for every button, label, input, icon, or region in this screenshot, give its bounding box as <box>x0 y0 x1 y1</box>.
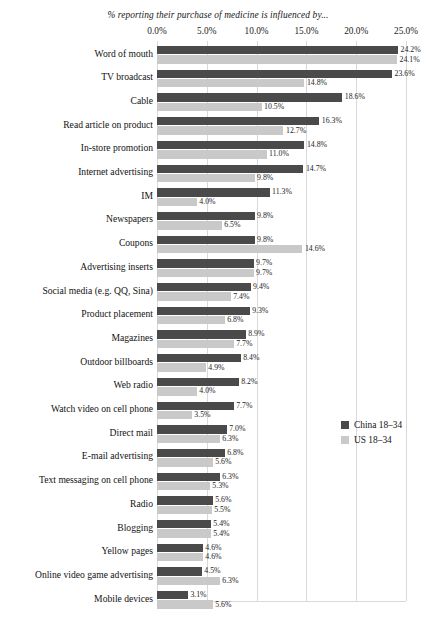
bar-china <box>157 544 203 552</box>
bar-value-china: 24.2% <box>398 46 421 54</box>
legend-label: China 18–34 <box>354 420 402 430</box>
bar-group: 11.3%4.0% <box>157 188 436 209</box>
chart-title: % reporting their purchase of medicine i… <box>0 10 436 20</box>
bar-value-us: 14.8% <box>304 79 327 87</box>
bar-china <box>157 449 225 457</box>
bar-value-china: 6.3% <box>220 473 239 481</box>
legend-item[interactable]: China 18–34 <box>341 417 436 432</box>
bar-value-china: 9.8% <box>255 212 274 220</box>
bar-us <box>157 221 222 229</box>
bar-row: Yellow pages4.6%4.6% <box>0 542 436 566</box>
bar-group: 16.3%12.7% <box>157 117 436 138</box>
category-label: Yellow pages <box>0 545 153 557</box>
bar-group: 9.8%6.5% <box>157 211 436 232</box>
x-tick-label: 0.0% <box>147 26 166 36</box>
bar-row: Internet advertising14.7%9.8% <box>0 163 436 187</box>
bar-china <box>157 188 270 196</box>
category-label: Coupons <box>0 237 153 249</box>
bar-row: Magazines8.9%7.7% <box>0 328 436 352</box>
bar-value-us: 6.3% <box>220 435 239 443</box>
bar-value-us: 5.4% <box>211 530 230 538</box>
bar-us <box>157 553 203 561</box>
bar-row: Online video game advertising4.5%6.3% <box>0 565 436 589</box>
legend-label: US 18–34 <box>354 435 392 445</box>
bar-china <box>157 354 241 362</box>
bar-group: 4.5%6.3% <box>157 567 436 588</box>
bar-row: Text messaging on cell phone6.3%5.3% <box>0 471 436 495</box>
bar-value-us: 6.5% <box>222 221 241 229</box>
bar-value-china: 6.8% <box>225 449 244 457</box>
bar-row: Word of mouth24.2%24.1% <box>0 44 436 68</box>
bar-value-china: 3.1% <box>188 591 207 599</box>
bar-us <box>157 506 212 514</box>
category-label: Read article on product <box>0 119 153 131</box>
category-label: TV broadcast <box>0 71 153 83</box>
bar-value-china: 11.3% <box>270 188 292 196</box>
x-tick-label: 10.0% <box>245 26 269 36</box>
bar-us <box>157 174 255 182</box>
bar-value-china: 14.8% <box>304 141 327 149</box>
bar-china <box>157 259 254 267</box>
bar-value-us: 4.6% <box>203 553 222 561</box>
bar-value-us: 3.5% <box>192 411 211 419</box>
bar-group: 9.3%6.8% <box>157 306 436 327</box>
bar-row: Advertising inserts9.7%9.7% <box>0 257 436 281</box>
bar-group: 5.4%5.4% <box>157 520 436 541</box>
bar-china <box>157 283 251 291</box>
bar-china <box>157 117 319 125</box>
x-tick-label: 20.0% <box>344 26 368 36</box>
category-label: Social media (e.g. QQ, Sina) <box>0 285 153 297</box>
bar-row: Blogging5.4%5.4% <box>0 518 436 542</box>
bar-value-us: 5.3% <box>210 482 229 490</box>
bar-china <box>157 496 213 504</box>
bar-us <box>157 458 213 466</box>
bar-value-us: 10.5% <box>262 103 285 111</box>
bar-group: 8.4%4.9% <box>157 354 436 375</box>
bar-us <box>157 600 213 608</box>
chart-legend: China 18–34US 18–34 <box>341 417 436 447</box>
bar-china <box>157 236 255 244</box>
bar-china <box>157 330 246 338</box>
bar-us <box>157 245 302 253</box>
bar-us <box>157 79 304 87</box>
bar-value-china: 16.3% <box>319 117 342 125</box>
category-label: Mobile devices <box>0 593 153 605</box>
bar-group: 8.9%7.7% <box>157 330 436 351</box>
bar-value-us: 7.7% <box>234 340 253 348</box>
bar-value-china: 23.6% <box>392 70 415 78</box>
bar-value-china: 9.8% <box>255 236 274 244</box>
x-tick-label: 15.0% <box>294 26 318 36</box>
bar-value-us: 7.4% <box>231 293 250 301</box>
bar-us <box>157 340 234 348</box>
bar-row: Web radio8.2%4.0% <box>0 376 436 400</box>
bar-group: 9.8%14.6% <box>157 235 436 256</box>
bar-value-us: 5.5% <box>212 506 231 514</box>
bar-value-us: 24.1% <box>397 56 420 64</box>
bar-us <box>157 198 197 206</box>
bar-china <box>157 567 202 575</box>
bar-china <box>157 93 342 101</box>
bar-china <box>157 378 239 386</box>
bar-row: Social media (e.g. QQ, Sina)9.4%7.4% <box>0 281 436 305</box>
bar-value-china: 7.0% <box>227 425 246 433</box>
legend-item[interactable]: US 18–34 <box>341 432 436 447</box>
legend-swatch-icon <box>341 436 349 444</box>
bar-value-china: 5.6% <box>213 496 232 504</box>
bar-value-china: 5.4% <box>211 520 230 528</box>
bar-us <box>157 316 225 324</box>
bar-us <box>157 126 283 134</box>
bar-group: 14.8%11.0% <box>157 140 436 161</box>
bar-china <box>157 473 220 481</box>
bar-value-us: 14.6% <box>302 245 325 253</box>
bar-row: Coupons9.8%14.6% <box>0 234 436 258</box>
bar-china <box>157 70 392 78</box>
bar-row: Cable18.6%10.5% <box>0 91 436 115</box>
x-axis-tick-labels: 0.0%5.0%10.0%15.0%20.0%25.0% <box>0 26 436 40</box>
bar-value-us: 9.7% <box>254 269 273 277</box>
category-label: Internet advertising <box>0 166 153 178</box>
bar-us <box>157 387 197 395</box>
bar-group: 9.7%9.7% <box>157 259 436 280</box>
bar-group: 4.6%4.6% <box>157 543 436 564</box>
category-label: Newspapers <box>0 213 153 225</box>
bar-us <box>157 363 206 371</box>
